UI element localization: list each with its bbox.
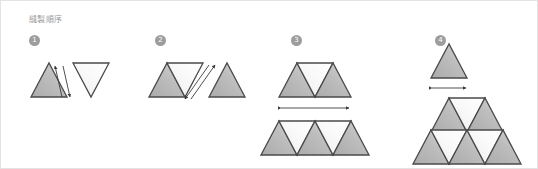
step-3-row-top [279, 63, 351, 97]
step-4-row-apex [431, 44, 467, 78]
step-1-piece-up [31, 63, 67, 97]
step-4: 4 [401, 1, 538, 169]
step-3: 3 [261, 1, 401, 169]
step-3-badge: 3 [291, 35, 302, 46]
step-3-diagram [261, 59, 401, 164]
step-1: 1 [1, 1, 131, 169]
step-4-diagram [401, 38, 538, 164]
step-4-row-bottom [413, 130, 521, 164]
step-1-badge: 1 [29, 35, 40, 46]
sewing-order-figure: 縫製順序 1 [0, 0, 538, 169]
triangle-up [431, 44, 467, 78]
step-2-diagram [137, 59, 253, 103]
step-4-row-middle [431, 98, 503, 132]
step-1-piece-down [73, 63, 109, 97]
step-2-piece-up-right [209, 63, 245, 97]
step-2: 2 [131, 1, 261, 169]
step-1-diagram [29, 59, 125, 103]
step-2-badge: 2 [155, 35, 166, 46]
step-3-row-bottom [261, 121, 369, 155]
